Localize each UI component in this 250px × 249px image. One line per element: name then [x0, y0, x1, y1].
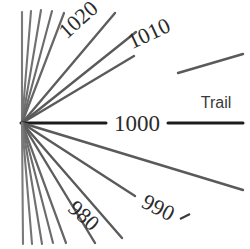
contour-label-1000: 1000	[114, 111, 160, 136]
isobar-canvas: 1020 1010 1000 990 980 Trail	[0, 0, 250, 249]
contour-label-1010: 1010	[124, 13, 174, 54]
lower-isobar-lines	[22, 123, 243, 243]
contour-label-990: 990	[138, 189, 179, 226]
dash-mark-990	[180, 214, 190, 219]
isobar-figure: 1020 1010 1000 990 980 Trail	[0, 0, 250, 249]
isobar-faint-line	[22, 123, 23, 244]
trail-label: Trail	[201, 94, 232, 111]
